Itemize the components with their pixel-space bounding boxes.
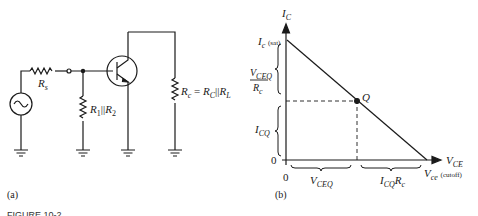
label-rs: Rs	[38, 78, 48, 92]
x-axis-arrow-icon	[432, 157, 441, 164]
vceq-label: VCEQ	[310, 175, 333, 189]
brace-icqrc-icon	[361, 165, 421, 171]
ic-sat-label: Ic (sat)	[258, 36, 280, 50]
schematic-canvas	[0, 0, 478, 216]
icq-label: ICQ	[255, 124, 270, 138]
fraction-numerator: VCEQ	[250, 68, 272, 81]
origin-x-label: 0	[283, 172, 289, 183]
resistor-rc-icon	[172, 78, 178, 100]
origin-y-label: 0	[271, 155, 277, 166]
terminal-node-icon	[67, 69, 71, 73]
resistor-rs-icon	[30, 68, 52, 74]
y-axis-arrow-icon	[283, 24, 290, 33]
fraction-denominator: Rc	[253, 83, 263, 96]
resistor-r1r2-icon	[80, 96, 86, 118]
wire-source-top	[21, 71, 30, 93]
ground-icon	[14, 150, 182, 156]
vce-cutoff-label: Vce (cutoff)	[424, 168, 462, 182]
wire-collector	[128, 32, 175, 78]
brace-vceq-rc-icon	[275, 44, 281, 94]
label-rc-eq: Rc = RC||RL	[181, 86, 231, 100]
ac-source-icon	[10, 93, 32, 115]
brace-vceq-icon	[291, 165, 351, 171]
npn-transistor-icon	[107, 32, 137, 150]
icq-rc-label: ICQRc	[380, 175, 405, 189]
figure-caption: FIGURE 10-2	[7, 210, 62, 216]
y-axis-label: IC	[282, 8, 291, 22]
q-dashed-lines	[286, 101, 357, 160]
panel-a-label: (a)	[7, 190, 18, 200]
brace-icq-icon	[275, 106, 281, 156]
q-point-label: Q	[362, 92, 370, 103]
q-point-dot-icon	[355, 99, 360, 104]
label-r1-r2: R1||R2	[90, 104, 116, 118]
panel-b-label: (b)	[275, 190, 287, 200]
